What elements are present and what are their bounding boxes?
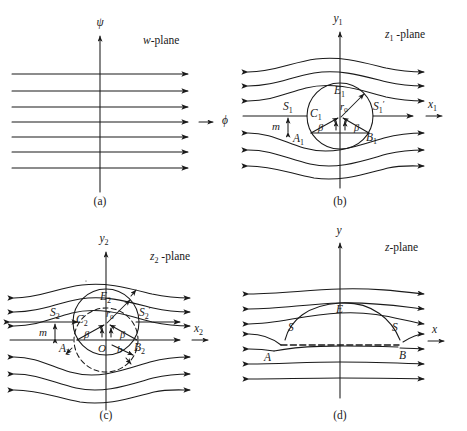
panel-c-caption: (c) <box>100 409 113 422</box>
beta-left-arrow-c <box>77 325 104 340</box>
panel-b-plane-label: z1 -plane <box>384 28 425 43</box>
panel-c-r0-label: ro <box>106 308 114 321</box>
panel-d-S-right-label: S <box>392 321 398 333</box>
panel-c-beta-right-label: β <box>119 329 126 340</box>
panel-b-C1-label: C1 <box>310 107 322 122</box>
figure-svg: ψ w-plane ϕ (a) y1 z1 -plane x1 E1 C1 ro… <box>0 0 467 431</box>
panel-d <box>249 243 444 398</box>
panel-a-psi-label: ψ <box>96 16 104 29</box>
panel-d-y-label: y <box>335 224 342 237</box>
panel-a <box>12 36 213 192</box>
panel-c-O-label: O <box>98 342 106 354</box>
panel-c-m-label: m <box>39 326 47 338</box>
beta-left-arrow-b <box>311 118 338 133</box>
panel-d-x-label: x <box>431 323 438 335</box>
panel-c-S2-label: S2 <box>50 306 60 321</box>
panel-c-S2p-label: S2′ <box>139 305 151 321</box>
panel-d-E-label: E <box>335 303 343 315</box>
panel-a-caption: (a) <box>94 195 107 208</box>
panel-c-beta-left-label: β <box>83 329 90 340</box>
aerofoil-lower <box>274 346 398 351</box>
panel-c-b-label: b <box>117 343 123 355</box>
panel-b-beta-right-label: β <box>353 122 360 133</box>
panel-c-A2-label: A2 <box>58 342 70 357</box>
figure-root: ψ w-plane ϕ (a) y1 z1 -plane x1 E1 C1 ro… <box>0 0 467 431</box>
panel-b-caption: (b) <box>333 195 347 208</box>
panel-d-S-left-label: S <box>288 321 294 333</box>
panel-d-B-label: B <box>399 349 406 361</box>
panel-b-m-label: m <box>272 120 280 132</box>
panel-b-beta-left-label: β <box>317 122 324 133</box>
panel-c-y2-label: y2 <box>98 232 108 247</box>
panel-a-phi-label: ϕ <box>222 114 228 127</box>
panel-c-B2-label: B2 <box>134 341 145 356</box>
panel-d-A-label: A <box>263 351 272 363</box>
panel-c-x2-label: x2 <box>193 322 203 337</box>
panel-c-plane-label: z2 -plane <box>149 250 190 265</box>
panel-a-plane-label: w-plane <box>143 34 179 47</box>
panel-b-x1-label: x1 <box>427 98 437 113</box>
panel-d-caption: (d) <box>333 409 347 422</box>
panel-b-S1-label: S1 <box>283 100 293 115</box>
panel-b-S1p-label: S1′ <box>373 99 385 115</box>
panel-c-E2-label: E2 <box>99 290 111 305</box>
panel-d-plane-label: z-plane <box>384 241 418 254</box>
panel-b-r0-label: ro <box>340 101 348 114</box>
panel-b-y1-label: y1 <box>332 12 342 27</box>
